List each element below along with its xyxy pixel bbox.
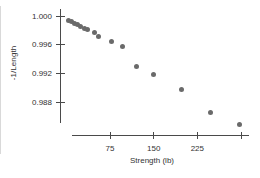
x-tick-label: 150: [147, 144, 160, 153]
data-point: [151, 72, 156, 77]
figure-left-border: [0, 6, 1, 154]
data-point: [96, 34, 101, 39]
data-point: [179, 87, 184, 92]
y-tick-mark: [56, 44, 65, 45]
data-point: [237, 122, 242, 127]
data-point: [120, 44, 125, 49]
y-tick-label: 1.000: [20, 12, 52, 21]
x-tick-label: 75: [106, 144, 115, 153]
y-tick-mark: [56, 73, 65, 74]
data-point: [208, 110, 213, 115]
data-point: [134, 64, 139, 69]
x-axis-line: [72, 135, 249, 136]
data-point: [109, 39, 114, 44]
y-tick-mark: [56, 102, 65, 103]
x-tick-label: 225: [191, 144, 204, 153]
y-tick-label: 0.996: [20, 40, 52, 49]
y-tick-label: 0.988: [20, 98, 52, 107]
y-tick-label: 0.992: [20, 69, 52, 78]
y-axis-title: -1/Length: [9, 46, 18, 81]
y-axis-line: [60, 9, 61, 123]
x-tick-mark: [197, 132, 198, 139]
y-tick-mark: [56, 16, 65, 17]
x-tick-mark: [153, 132, 154, 139]
x-tick-mark: [241, 132, 242, 139]
x-tick-mark: [110, 132, 111, 139]
data-point: [85, 27, 90, 32]
scatter-plot-figure: -1/Length 1.0000.9960.9920.98875150225 S…: [0, 0, 260, 178]
x-axis-title: Strength (lb): [130, 156, 174, 165]
